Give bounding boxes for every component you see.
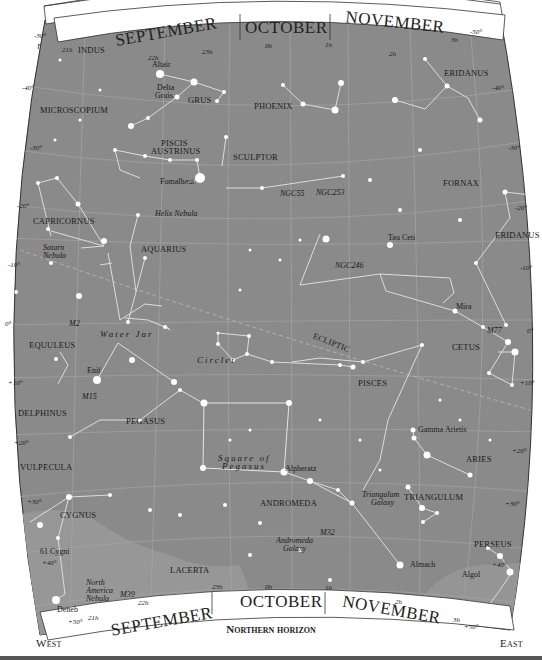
ra-tick-bottom-1h: 1h <box>325 584 333 592</box>
bottom-rule <box>0 656 542 660</box>
dec-tick-left-plus40: +40° <box>42 559 57 567</box>
label-capricornus: CAPRICORNUS <box>33 216 95 226</box>
label-altair: Altair <box>152 60 171 69</box>
label-m32: M32 <box>319 528 335 537</box>
ra-tick-top-21h: 21h <box>62 46 73 54</box>
label-sculptor: SCULPTOR <box>233 152 278 162</box>
label-fornax: FORNAX <box>443 178 479 188</box>
dec-tick-right-plus30: +30° <box>505 500 520 508</box>
ra-tick-top-0h: 0h <box>265 42 273 50</box>
label-delphinus: DELPHINUS <box>18 408 67 418</box>
label-vulpecula: VULPECULA <box>20 462 73 472</box>
dec-tick-left-plus30: +30° <box>27 498 42 506</box>
label-austrinus: AUSTRINUS <box>151 146 201 156</box>
label-pegasus: PEGASUS <box>126 416 165 426</box>
dec-tick-right-minus50: -50° <box>470 28 482 36</box>
dec-tick-right-plus40: +40° <box>492 561 507 569</box>
dec-tick-left-minus10: -10° <box>8 261 20 269</box>
label-perseus: PERSEUS <box>474 539 512 549</box>
dec-tick-left-0: 0° <box>5 320 12 328</box>
dec-tick-left-plus20: +20° <box>14 439 29 447</box>
top-month-october: OCTOBER <box>245 18 328 37</box>
label-triangulum-galaxy-2: Galaxy <box>371 498 395 507</box>
ra-tick-top-3h: 3h <box>450 36 459 44</box>
label-cetus: CETUS <box>452 342 480 352</box>
label-ngc246: NGC246 <box>334 261 363 270</box>
label-mira: Mira <box>456 302 472 311</box>
label-pegasus-square: Pegasus <box>221 461 266 471</box>
dec-tick-right-minus20: -20° <box>515 204 527 212</box>
label-aries: ARIES <box>466 454 492 464</box>
bottom-month-october: OCTOBER <box>240 592 323 611</box>
label-lacerta: LACERTA <box>170 565 210 575</box>
ra-tick-top-23h: 23h <box>202 48 213 56</box>
label-delta-gruis-2: Gruis <box>155 91 173 100</box>
label-indus: INDUS <box>78 45 105 55</box>
label-enif: Enif <box>87 366 101 375</box>
label-grus: GRUS <box>188 95 212 105</box>
label-microscopium: MICROSCOPIUM <box>40 105 108 115</box>
label-61-cygni: 61 Cygni <box>40 547 70 556</box>
label-m15: M15 <box>81 392 97 401</box>
dec-tick-right-plus10: +10° <box>520 379 535 387</box>
label-gamma-arietis: Gamma Arietis <box>418 425 467 434</box>
label-aquarius: AQUARIUS <box>141 244 187 254</box>
label-north-america-nebula-3: Nebula <box>85 594 109 603</box>
ra-tick-bottom-22h: 22h <box>138 599 149 607</box>
label-phoenix: PHOENIX <box>254 101 293 111</box>
label-circlet: Circlet <box>197 355 236 365</box>
label-tau-ceti: Tau Ceti <box>388 233 416 242</box>
label-water-jar: Water Jar <box>100 329 153 339</box>
label-ngc253: NGC253 <box>315 188 344 197</box>
label-m77: M77 <box>486 326 503 335</box>
dec-tick-left-plus10: +10° <box>8 379 23 387</box>
label-cygnus: CYGNUS <box>60 510 96 520</box>
label-fomalhaut: Fomalhaut <box>160 177 195 186</box>
dec-tick-right-plus20: +20° <box>512 447 527 455</box>
label-algol: Algol <box>462 570 481 579</box>
ra-tick-bottom-0h: 0h <box>265 583 273 591</box>
northern-horizon-label: Northern horizon <box>0 623 542 635</box>
label-triangulum: TRIANGULUM <box>404 492 463 502</box>
label-andromeda: ANDROMEDA <box>260 498 318 508</box>
ra-tick-bottom-23h: 23h <box>212 583 223 591</box>
label-deneb: Deneb <box>57 605 78 614</box>
dec-tick-right-0: 0° <box>527 327 534 335</box>
dec-tick-right-minus30: -30° <box>508 144 520 152</box>
dec-tick-left-minus40: -40° <box>22 84 34 92</box>
label-m2: M2 <box>68 319 80 328</box>
star-chart: SEPTEMBER OCTOBER NOVEMBER SEPTEMBER OCT… <box>0 0 542 660</box>
label-andromeda-galaxy-2: Galaxy <box>283 544 307 553</box>
dec-tick-left-minus30: -30° <box>30 144 42 152</box>
west-label: West <box>36 637 62 649</box>
ra-tick-top-1h: 1h <box>325 41 333 49</box>
label-almach: Almach <box>410 560 435 569</box>
dec-tick-right-minus40: -40° <box>492 84 504 92</box>
ra-tick-bottom-2h: 2h <box>395 598 403 606</box>
ra-tick-bottom-21h: 21h <box>88 614 99 622</box>
label-pisces: PISCES <box>358 378 387 388</box>
label-alpheratz: Alpheratz <box>285 464 317 473</box>
east-label: East <box>500 637 523 649</box>
label-helix-nebula: Helix Nebula <box>154 209 197 218</box>
label-eridanus-top: ERIDANUS <box>444 68 489 78</box>
label-saturn-nebula-2: Nebula <box>42 251 66 260</box>
label-ngc55: NGC55 <box>279 189 304 198</box>
dec-tick-right-minus10: -10° <box>520 264 532 272</box>
dec-tick-left-minus20: -20° <box>17 202 29 210</box>
label-equuleus: EQUULEUS <box>29 340 76 350</box>
label-eridanus: ERIDANUS <box>495 230 540 240</box>
label-m39: M39 <box>119 590 135 599</box>
ra-tick-top-2h: 2h <box>389 50 397 58</box>
dec-tick-left-minus30-top: -30° <box>34 32 46 40</box>
